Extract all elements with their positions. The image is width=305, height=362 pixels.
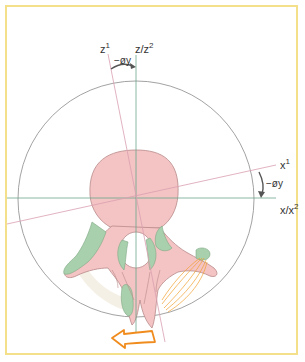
label-z1: z1 <box>100 44 110 55</box>
rotation-arrow-icon <box>112 330 155 348</box>
label-x-x2: x/x2 <box>280 205 299 216</box>
label-angle-top: −øy <box>114 56 131 66</box>
label-z-z2: z/z2 <box>135 44 154 55</box>
angle-arrow-right <box>259 172 263 194</box>
angle-arrowhead-right <box>258 191 265 198</box>
label-x1: x1 <box>280 160 290 171</box>
label-angle-right: −øy <box>266 179 283 189</box>
cartilage-spinous-left <box>121 285 133 316</box>
cartilage-transverse-right <box>196 248 210 260</box>
